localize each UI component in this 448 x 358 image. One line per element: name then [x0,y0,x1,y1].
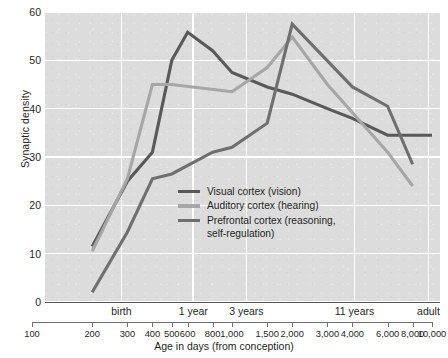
x-tick-label: 10,000 [418,329,446,339]
legend-item: Auditory cortex (hearing) [178,199,336,212]
x-tick-mark [432,322,433,327]
legend: Visual cortex (vision)Auditory cortex (h… [178,185,336,242]
x-tick-mark [232,322,233,327]
era-label: birth [111,305,131,317]
era-label: 1 year [179,305,208,317]
x-tick-label: 4,000 [341,329,364,339]
y-tick-label: 20 [29,199,45,211]
x-tick-label: 6,000 [376,329,399,339]
x-tick-mark [267,322,268,327]
legend-swatch [178,190,200,193]
y-tick-label: 50 [29,54,45,66]
y-tick-label: 60 [29,6,45,18]
era-label: 11 years [335,305,375,317]
x-tick-label: 2,000 [281,329,304,339]
x-tick-mark [32,322,33,327]
series-layer [45,12,440,302]
legend-item: Prefrontal cortex (reasoning, self-regul… [178,214,336,241]
x-tick-label: 3,000 [316,329,339,339]
plot-area: 0102030405060 Visual cortex (vision)Audi… [45,12,440,302]
x-tick-label: 800 [205,329,221,339]
legend-swatch [178,204,200,207]
y-tick-label: 30 [29,151,45,163]
y-tick-label: 10 [29,248,45,260]
x-tick-mark [292,322,293,327]
y-tick-label: 40 [29,103,45,115]
x-tick-mark [213,322,214,327]
x-tick-label: 1,500 [256,329,279,339]
legend-label: Visual cortex (vision) [207,185,301,198]
synaptic-density-chart: Synaptic density 0102030405060 Visual co… [0,0,448,358]
legend-swatch [178,219,200,222]
x-tick-mark [92,322,93,327]
x-tick-mark [352,322,353,327]
y-axis-title: Synaptic density [19,59,31,199]
x-tick-label: 600 [180,329,196,339]
x-tick-label: 400 [145,329,161,339]
x-tick-mark [152,322,153,327]
legend-item: Visual cortex (vision) [178,185,336,198]
era-label: 3 years [229,305,263,317]
x-tick-label: 300 [120,329,136,339]
x-tick-mark [388,322,389,327]
x-tick-mark [127,322,128,327]
series-line [92,24,412,292]
x-axis-baseline [45,302,440,303]
x-tick-mark [188,322,189,327]
x-tick-mark [413,322,414,327]
x-tick-label: 500 [164,329,180,339]
x-axis-title: Age in days (from conception) [0,340,448,352]
x-tick-label: 1,000 [220,329,243,339]
era-label: adult [417,305,440,317]
x-tick-mark [327,322,328,327]
x-tick-label: 100 [24,329,40,339]
x-tick-label: 200 [84,329,100,339]
legend-label: Prefrontal cortex (reasoning, self-regul… [207,214,336,241]
legend-label: Auditory cortex (hearing) [207,199,319,212]
y-tick-label: 0 [35,296,45,308]
x-tick-mark [172,322,173,327]
